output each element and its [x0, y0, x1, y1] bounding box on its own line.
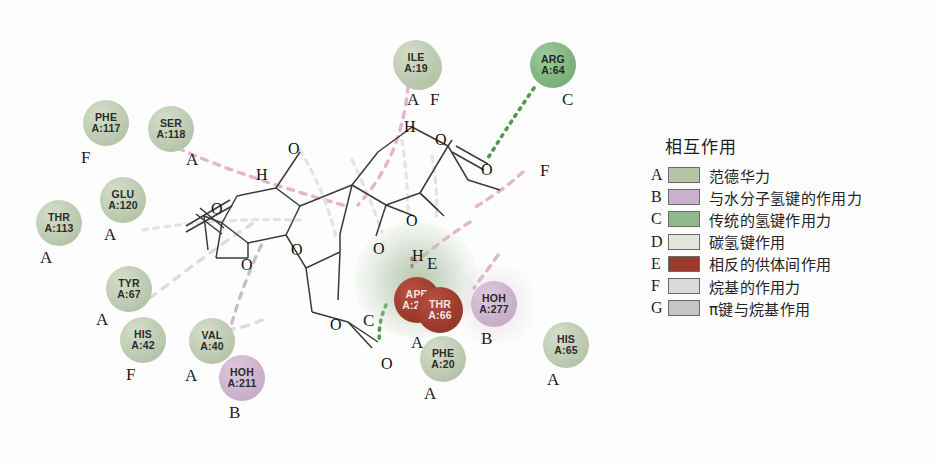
interaction-tag-hoh277: B — [481, 329, 492, 349]
residue-thr66[interactable]: THRA:66 — [417, 287, 463, 333]
bond-his42-alkyl — [150, 224, 252, 298]
atom-label: O — [288, 140, 300, 158]
residue-ser118[interactable]: SERA:118 — [148, 106, 194, 152]
interaction-tag-ser118: A — [186, 150, 198, 170]
legend-letter: G — [651, 299, 668, 317]
legend-letter: B — [651, 188, 668, 206]
legend-color-swatch — [668, 278, 700, 294]
bond-ch-mid4 — [432, 156, 437, 218]
residue-thr113[interactable]: THRA:113 — [36, 200, 82, 246]
atom-label: O — [373, 240, 385, 258]
legend-item-b: B与水分子氢键的作用力 — [651, 186, 936, 208]
interaction-tag-phe20: A — [424, 384, 436, 404]
residue-chain: A:67 — [117, 289, 141, 300]
legend-label: π键与烷基作用 — [709, 298, 810, 319]
legend-item-a: A范德华力 — [651, 164, 936, 186]
atom-label: O — [241, 256, 253, 274]
legend-letter: F — [651, 277, 668, 295]
bond-arg64-hbond — [488, 88, 534, 158]
residue-chain: A:120 — [108, 200, 138, 211]
interaction-tag-free: F — [540, 161, 549, 181]
legend-color-swatch — [668, 211, 700, 227]
interaction-tag-tyr67: A — [96, 310, 108, 330]
residue-chain: A:64 — [541, 65, 565, 76]
interaction-tag-hoh211: B — [229, 403, 240, 423]
legend-item-d: D碳氢键作用 — [651, 231, 936, 253]
legend-label: 传统的氢键作用力 — [709, 209, 831, 230]
atom-label: O — [291, 241, 303, 259]
residue-phe117[interactable]: PHEA:117 — [83, 100, 129, 146]
legend-item-c: C传统的氢键作用力 — [651, 208, 936, 230]
residue-chain: A:118 — [156, 129, 185, 140]
atom-label: O — [330, 316, 342, 334]
legend-color-swatch — [668, 167, 700, 183]
residue-glu120[interactable]: GLUA:120 — [100, 177, 146, 223]
legend-color-swatch — [668, 234, 700, 250]
atom-label: O — [381, 355, 393, 373]
atom-label: H — [412, 247, 424, 265]
legend-label: 相反的供体间作用 — [709, 253, 831, 274]
residue-hoh277[interactable]: HOHA:277 — [471, 281, 517, 327]
residue-his65[interactable]: HISA:65 — [543, 322, 589, 368]
bond-ala114-alkyl — [358, 86, 408, 205]
bond-ch-mid2 — [352, 160, 382, 232]
residue-chain: A:40 — [200, 341, 224, 352]
atom-label: H — [404, 118, 416, 136]
residue-chain: A:66 — [428, 310, 452, 321]
atom-label: O — [481, 161, 493, 179]
legend-label: 烷基的作用力 — [709, 276, 801, 297]
residue-chain: A:65 — [554, 345, 578, 356]
legend-label: 与水分子氢键的作用力 — [709, 187, 862, 208]
bond-glu120-ch — [143, 219, 300, 230]
residue-val40[interactable]: VALA:40 — [189, 318, 235, 364]
residue-chain: A:42 — [131, 340, 155, 351]
residue-chain: A:19 — [404, 63, 428, 74]
residue-chain: A:20 — [431, 359, 455, 370]
interaction-tag-free: C — [363, 311, 374, 331]
legend-color-swatch — [668, 300, 700, 316]
residue-chain: A:211 — [227, 378, 256, 389]
interaction-tag-his65: A — [547, 370, 559, 390]
legend-label: 范德华力 — [709, 165, 770, 186]
legend-title: 相互作用 — [665, 133, 936, 158]
legend-item-e: E相反的供体间作用 — [651, 253, 936, 275]
atom-label: H — [256, 166, 268, 184]
residue-arg64[interactable]: ARGA:64 — [530, 42, 576, 88]
interaction-tag-glu120: A — [104, 225, 116, 245]
interaction-tag-his42: F — [126, 365, 135, 385]
interaction-tag-arg64: C — [562, 90, 573, 110]
legend-letter: C — [651, 210, 668, 228]
residue-chain: A:113 — [44, 223, 73, 234]
residue-phe20[interactable]: PHEA:20 — [420, 336, 466, 382]
residue-tyr67[interactable]: TYRA:67 — [106, 266, 152, 312]
interaction-tag-ala114: F — [430, 90, 439, 110]
atom-label: O — [211, 200, 223, 218]
legend-rows: A范德华力B与水分子氢键的作用力C传统的氢键作用力D碳氢键作用E相反的供体间作用… — [651, 164, 936, 319]
legend-color-swatch — [668, 189, 700, 205]
residue-chain: A:277 — [479, 304, 509, 315]
residue-his42[interactable]: HISA:42 — [120, 317, 166, 363]
interaction-tag-phe117: F — [81, 148, 90, 168]
legend-color-swatch — [668, 256, 700, 272]
interaction-diagram-canvas: ALAA:114FILEA:19AARGA:64CPHEA:117FSERA:1… — [0, 0, 938, 463]
interaction-tag-ile19: A — [407, 90, 419, 110]
interaction-tag-val40: A — [185, 366, 197, 386]
interaction-tag-thr113: A — [40, 248, 52, 268]
legend-label: 碳氢键作用 — [709, 231, 786, 252]
legend-letter: E — [651, 255, 668, 273]
bond-ch-mid — [300, 150, 336, 238]
atom-label: O — [435, 131, 447, 149]
legend-letter: A — [651, 166, 668, 184]
legend-item-g: Gπ键与烷基作用 — [651, 297, 936, 319]
legend-letter: D — [651, 233, 668, 251]
interaction-tag-free: E — [427, 254, 437, 274]
atom-label: O — [406, 212, 418, 230]
legend-panel: 相互作用 A范德华力B与水分子氢键的作用力C传统的氢键作用力D碳氢键作用E相反的… — [651, 133, 936, 319]
legend-item-f: F烷基的作用力 — [651, 275, 936, 297]
residue-chain: A:117 — [91, 123, 120, 134]
residue-ile19[interactable]: ILEA:19 — [393, 40, 439, 86]
bond-ch-mid3 — [402, 140, 408, 212]
residue-hoh211[interactable]: HOHA:211 — [219, 355, 265, 401]
